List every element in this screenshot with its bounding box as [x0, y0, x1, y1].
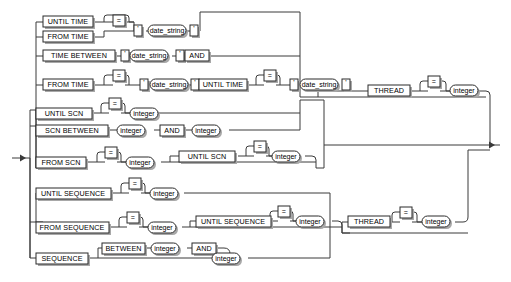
nonterminal-integer-from-sequence[interactable]: integer	[148, 222, 178, 235]
nonterminal-integer-thread-upper[interactable]: integer	[450, 85, 480, 98]
token-label: SCN BETWEEN	[45, 126, 99, 135]
token-and-1[interactable]: AND	[185, 50, 211, 63]
nonterminal-label: integer	[299, 218, 321, 226]
token-label: AND	[189, 51, 204, 60]
nonterminal-label: integer	[195, 127, 217, 135]
token-label: =	[432, 77, 436, 86]
token-label: UNTIL SCN	[188, 152, 227, 161]
nonterminal-label: integer	[215, 255, 237, 263]
token-equals-from-sequence[interactable]: =	[127, 212, 141, 225]
token-label: FROM SEQUENCE	[40, 223, 105, 232]
token-label: SEQUENCE	[41, 254, 82, 263]
token-from-sequence[interactable]: FROM SEQUENCE	[36, 222, 111, 235]
token-label: =	[131, 213, 135, 222]
token-label: FROM TIME	[47, 80, 88, 89]
token-label: THREAD	[374, 86, 404, 95]
nonterminal-integer-seq-b1[interactable]: integer	[151, 243, 181, 256]
nonterminal-integer-until-scn2[interactable]: integer	[272, 151, 302, 164]
token-label: =	[117, 71, 121, 80]
token-equals-until-sequence[interactable]: =	[129, 178, 143, 191]
token-equals-thread-upper[interactable]: =	[428, 76, 442, 89]
token-label: =	[268, 71, 272, 80]
nonterminal-label: integer	[120, 127, 142, 135]
nonterminal-label: date_string	[132, 52, 167, 60]
nonterminal-integer-scn-b1[interactable]: integer	[117, 125, 147, 138]
nonterminal-label: integer	[453, 87, 475, 95]
nonterminal-date-string-1[interactable]: date_string	[148, 25, 188, 38]
nonterminal-label: integer	[425, 218, 447, 226]
token-quote-open-4[interactable]: '	[290, 78, 300, 92]
token-until-time-row1[interactable]: UNTIL TIME	[43, 16, 95, 29]
nonterminal-label: date_string	[302, 81, 337, 89]
token-label: =	[282, 207, 286, 216]
railroad-diagram-canvas: UNTIL TIME FROM TIME = ' date_string ' T…	[0, 0, 511, 282]
token-label: BETWEEN	[105, 244, 141, 253]
token-label: =	[404, 208, 408, 217]
nonterminal-integer-seq-b2[interactable]: integer	[212, 253, 242, 266]
token-until-time-row4[interactable]: UNTIL TIME	[199, 79, 249, 92]
nonterminal-integer-until-sequence[interactable]: integer	[150, 188, 180, 201]
token-until-sequence-row8[interactable]: UNTIL SEQUENCE	[36, 188, 113, 201]
token-equals-until-time[interactable]: =	[264, 70, 278, 83]
nonterminal-label: integer	[129, 159, 151, 167]
token-label: AND	[196, 244, 211, 253]
token-sequence[interactable]: SEQUENCE	[36, 253, 90, 266]
token-label: =	[109, 148, 113, 157]
token-label: =	[133, 179, 137, 188]
token-thread-upper[interactable]: THREAD	[368, 85, 412, 98]
token-thread-lower[interactable]: THREAD	[348, 216, 392, 229]
token-until-scn-row5[interactable]: UNTIL SCN	[36, 108, 94, 121]
nonterminal-label: integer	[151, 224, 173, 232]
nonterminal-date-string-3[interactable]: date_string	[150, 79, 190, 92]
token-equals-until-scn[interactable]: =	[109, 98, 123, 111]
token-quote-open-2[interactable]: '	[121, 49, 131, 63]
syntax-diagram-svg: UNTIL TIME FROM TIME = ' date_string ' T…	[0, 0, 511, 282]
token-label: TIME BETWEEN	[51, 51, 107, 60]
nonterminal-label: integer	[133, 110, 155, 118]
nonterminal-label: integer	[154, 245, 176, 253]
token-time-between[interactable]: TIME BETWEEN	[43, 50, 117, 63]
token-equals-until-sequence2[interactable]: =	[278, 206, 292, 219]
token-from-scn[interactable]: FROM SCN	[36, 157, 88, 170]
nonterminal-integer-thread-lower[interactable]: integer	[422, 216, 452, 229]
token-label: UNTIL TIME	[48, 17, 89, 26]
token-until-sequence-row9[interactable]: UNTIL SEQUENCE	[196, 216, 273, 229]
nonterminal-integer-scn-b2[interactable]: integer	[192, 125, 222, 138]
nonterminal-date-string-2[interactable]: date_string	[130, 50, 170, 63]
token-from-time-row2[interactable]: FROM TIME	[43, 31, 95, 44]
nonterminal-label: integer	[275, 153, 297, 161]
token-label: AND	[164, 126, 179, 135]
nonterminal-date-string-4[interactable]: date_string	[300, 79, 340, 92]
token-quote-open-1[interactable]: '	[134, 24, 144, 38]
token-label: FROM TIME	[47, 32, 88, 41]
token-label: UNTIL TIME	[203, 80, 244, 89]
nonterminal-integer-until-sequence2[interactable]: integer	[296, 216, 326, 229]
token-quote-open-3[interactable]: '	[140, 78, 150, 92]
token-equals-time[interactable]: =	[113, 15, 127, 28]
token-label: UNTIL SEQUENCE	[41, 189, 105, 198]
token-label: THREAD	[354, 217, 384, 226]
token-until-scn-row7[interactable]: UNTIL SCN	[179, 151, 237, 164]
nonterminal-label: integer	[153, 190, 175, 198]
token-equals-from-scn[interactable]: =	[105, 147, 119, 160]
nonterminal-label: date_string	[152, 81, 187, 89]
token-equals-thread-lower[interactable]: =	[400, 207, 414, 220]
token-quote-close-1[interactable]: '	[190, 24, 200, 38]
token-label: UNTIL SEQUENCE	[201, 217, 265, 226]
token-and-scn[interactable]: AND	[160, 125, 186, 138]
token-from-time-row4[interactable]: FROM TIME	[43, 79, 95, 92]
nonterminal-integer-until-scn[interactable]: integer	[130, 108, 160, 121]
token-between[interactable]: BETWEEN	[102, 243, 147, 256]
token-equals-from-time[interactable]: =	[113, 70, 127, 83]
token-label: =	[258, 142, 262, 151]
token-label: UNTIL SCN	[45, 109, 84, 118]
nonterminal-label: date_string	[150, 27, 185, 35]
token-quote-close-4[interactable]: '	[342, 78, 352, 92]
token-scn-between[interactable]: SCN BETWEEN	[36, 125, 110, 138]
token-label: =	[117, 16, 121, 25]
token-equals-until-scn2[interactable]: =	[254, 141, 268, 154]
token-label: =	[113, 99, 117, 108]
nonterminal-integer-from-scn[interactable]: integer	[126, 157, 156, 170]
token-label: FROM SCN	[41, 158, 80, 167]
